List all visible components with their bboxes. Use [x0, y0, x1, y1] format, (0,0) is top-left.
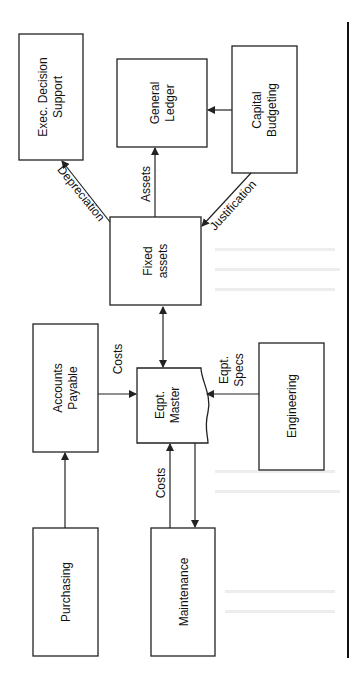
edge-assets: Assets [139, 148, 155, 217]
svg-text:Accounts: Accounts [51, 363, 65, 412]
svg-text:Assets: Assets [139, 166, 153, 202]
node-engineering: Engineering [259, 343, 324, 470]
svg-text:General: General [148, 82, 162, 125]
node-maintenance: Maintenance [151, 528, 215, 656]
svg-text:Depreciation: Depreciation [54, 163, 107, 224]
svg-text:Support: Support [51, 75, 65, 118]
edge-justification: Justification [202, 173, 259, 233]
svg-text:Capital: Capital [250, 91, 264, 128]
node-purchasing: Purchasing [33, 528, 98, 656]
svg-text:Costs: Costs [111, 344, 125, 375]
node-exec-decision-support: Exec. Decision Support [19, 34, 83, 160]
edge-costs-ap: Costs [98, 344, 136, 394]
svg-text:Eqpt.: Eqpt. [153, 391, 167, 419]
svg-text:Payable: Payable [66, 366, 80, 410]
node-capital-budgeting: Capital Budgeting [232, 46, 297, 173]
node-eqpt-master: Eqpt. Master [137, 368, 209, 443]
node-accounts-payable: Accounts Payable [33, 324, 98, 452]
edge-costs-maint: Costs [154, 444, 170, 528]
node-general-ledger: General Ledger [117, 59, 207, 147]
edge-eqpt-specs: Eqpt. Specs [207, 353, 259, 394]
svg-text:Specs: Specs [232, 353, 246, 386]
svg-text:Fixed: Fixed [141, 246, 155, 275]
svg-text:Maintenance: Maintenance [177, 557, 191, 626]
svg-text:assets: assets [156, 244, 170, 279]
flow-diagram: Exec. Decision Support General Ledger Ca… [0, 0, 351, 677]
svg-text:Justification: Justification [207, 177, 259, 233]
svg-text:Master: Master [168, 387, 182, 424]
svg-text:Costs: Costs [154, 468, 168, 499]
node-fixed-assets: Fixed assets [110, 217, 201, 305]
svg-text:Budgeting: Budgeting [265, 83, 279, 137]
svg-text:Exec. Decision: Exec. Decision [36, 57, 50, 136]
svg-text:Ledger: Ledger [163, 84, 177, 121]
svg-text:Purchasing: Purchasing [59, 562, 73, 622]
svg-text:Eqpt.: Eqpt. [217, 356, 231, 384]
edge-depreciation: Depreciation [54, 161, 110, 224]
svg-text:Engineering: Engineering [285, 374, 299, 438]
